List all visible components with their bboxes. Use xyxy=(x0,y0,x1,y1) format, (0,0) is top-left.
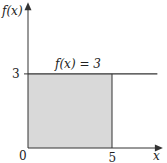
function-label: f(x) = 3 xyxy=(54,57,101,71)
x-axis-label: x xyxy=(153,149,160,163)
chart: f(x) x f(x) = 3 0 5 3 xyxy=(0,0,167,163)
y-axis-arrow-icon xyxy=(25,2,32,10)
x-tick-label-0: 0 xyxy=(19,149,27,163)
y-axis-label: f(x) xyxy=(1,4,23,18)
x-tick-label-5: 5 xyxy=(109,151,117,163)
shaded-area xyxy=(28,74,112,148)
y-tick-label-3: 3 xyxy=(12,67,20,81)
